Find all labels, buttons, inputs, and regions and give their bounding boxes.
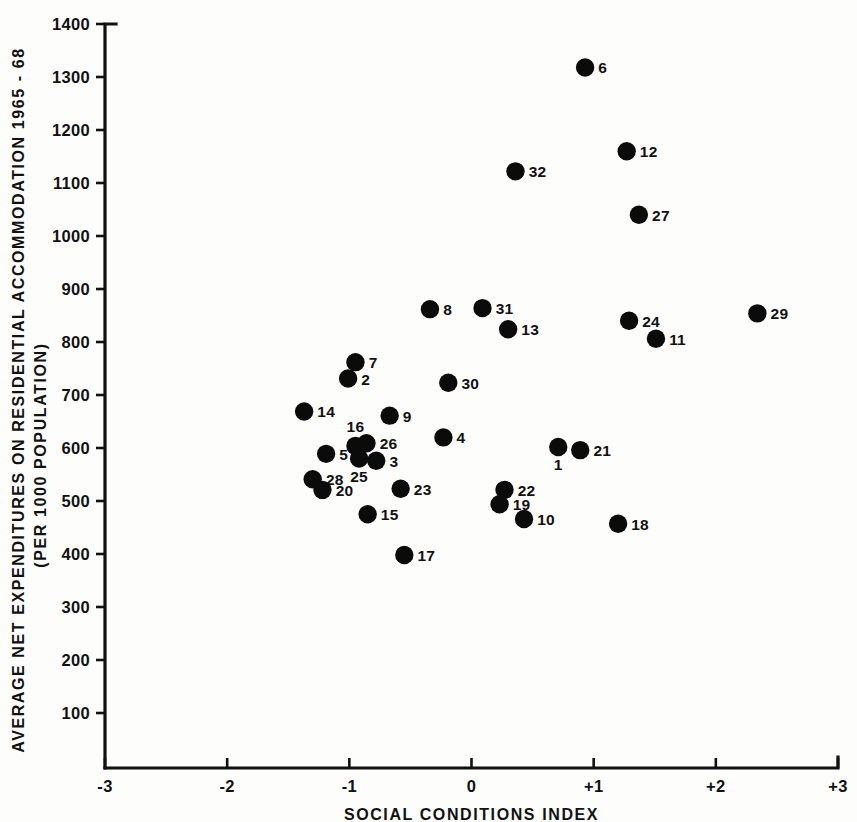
point-marker-23 [391,480,409,498]
data-point-32[interactable]: 32 [506,162,546,180]
axis-titles-layer: AVERAGE NET EXPENDITURES ON RESIDENTIAL … [10,47,599,822]
data-point-27[interactable]: 27 [630,206,670,224]
x-tick-label--1: -1 [342,777,357,795]
y-tick-label-700: 700 [62,386,90,404]
data-point-30[interactable]: 30 [439,374,479,392]
point-label-23: 23 [414,481,432,498]
y-tick-label-500: 500 [62,492,90,510]
point-marker-7 [346,353,364,371]
data-point-21[interactable]: 21 [571,441,611,459]
data-point-24[interactable]: 24 [620,312,660,330]
point-marker-2 [339,369,357,387]
point-label-14: 14 [317,403,335,420]
y-tick-label-1000: 1000 [52,227,90,245]
data-point-17[interactable]: 17 [395,546,435,564]
data-point-26[interactable]: 26 [357,434,397,452]
point-label-18: 18 [631,516,649,533]
point-label-16: 16 [347,418,365,435]
y-tick-label-200: 200 [62,651,90,669]
point-marker-31 [473,299,491,317]
data-point-3[interactable]: 3 [367,452,398,470]
data-point-11[interactable]: 11 [647,330,686,348]
data-point-2[interactable]: 2 [339,369,370,387]
data-point-10[interactable]: 10 [515,510,555,528]
data-point-5[interactable]: 5 [317,445,348,463]
point-label-30: 30 [461,375,479,392]
point-label-4: 4 [457,429,466,446]
x-tick-label-0: 0 [467,777,476,795]
point-marker-15 [358,505,376,523]
y-axis-line [105,24,116,768]
point-label-27: 27 [652,207,670,224]
point-label-26: 26 [380,435,398,452]
point-label-3: 3 [389,453,398,470]
data-point-13[interactable]: 13 [499,320,539,338]
data-point-14[interactable]: 14 [295,402,335,420]
point-marker-11 [647,330,665,348]
data-point-23[interactable]: 23 [391,480,431,498]
x-tick-label-+1: +1 [584,777,603,795]
point-label-11: 11 [669,331,686,348]
point-label-5: 5 [339,446,348,463]
x-axis-title: SOCIAL CONDITIONS INDEX [344,806,599,822]
point-marker-29 [748,304,766,322]
y-axis: 1002003004005006007008009001000110012001… [52,15,116,768]
data-point-12[interactable]: 12 [617,142,657,160]
point-label-7: 7 [369,354,378,371]
point-label-24: 24 [642,313,660,330]
point-label-17: 17 [418,547,436,564]
plot-canvas: 1002003004005006007008009001000110012001… [0,0,857,822]
data-point-8[interactable]: 8 [421,300,452,318]
y-tick-label-800: 800 [62,333,90,351]
point-marker-18 [609,515,627,533]
point-label-9: 9 [403,408,412,425]
point-marker-5 [317,445,335,463]
point-marker-8 [421,300,439,318]
point-label-13: 13 [521,321,539,338]
point-marker-9 [380,406,398,424]
data-point-25[interactable]: 25 [350,449,368,484]
scatter-plot-figure: 1002003004005006007008009001000110012001… [0,0,857,822]
point-label-8: 8 [443,301,452,318]
y-tick-label-1100: 1100 [53,174,90,192]
point-label-21: 21 [593,442,611,459]
data-point-9[interactable]: 9 [380,406,411,424]
point-marker-1 [549,438,567,456]
point-marker-13 [499,320,517,338]
point-marker-4 [434,428,452,446]
point-label-20: 20 [336,482,354,499]
data-point-18[interactable]: 18 [609,515,649,533]
x-axis: -3-2-10+1+2+3 [97,757,847,795]
point-marker-3 [367,452,385,470]
point-marker-25 [350,449,368,467]
point-marker-27 [630,206,648,224]
point-marker-24 [620,312,638,330]
y-tick-label-1200: 1200 [52,121,90,139]
y-tick-label-100: 100 [62,704,90,722]
data-point-31[interactable]: 31 [473,299,513,317]
data-point-7[interactable]: 7 [346,353,377,371]
data-point-6[interactable]: 6 [576,58,607,76]
point-label-29: 29 [771,305,789,322]
x-tick-label--2: -2 [220,777,235,795]
y-axis-title-subline: (PER 1000 POPULATION) [32,342,49,567]
data-point-1[interactable]: 1 [549,438,567,473]
y-axis-title: AVERAGE NET EXPENDITURES ON RESIDENTIAL … [10,47,27,753]
y-tick-label-900: 900 [62,280,90,298]
y-tick-label-1400: 1400 [52,15,90,33]
point-label-2: 2 [361,371,370,388]
data-points-layer: 6123227831292413117230149411621262535282… [295,58,788,564]
y-tick-label-300: 300 [62,598,90,616]
point-label-31: 31 [496,300,514,317]
x-tick-label--3: -3 [97,777,112,795]
data-point-29[interactable]: 29 [748,304,788,322]
point-marker-12 [617,142,635,160]
point-label-10: 10 [537,511,555,528]
point-label-15: 15 [381,506,399,523]
data-point-4[interactable]: 4 [434,428,465,446]
data-point-15[interactable]: 15 [358,505,398,523]
y-tick-label-1300: 1300 [52,68,90,86]
point-label-6: 6 [598,59,607,76]
point-marker-20 [313,481,331,499]
y-tick-label-400: 400 [62,545,90,563]
